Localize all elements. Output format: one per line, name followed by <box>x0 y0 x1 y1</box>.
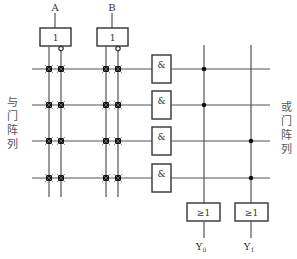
fuse-x-marks <box>45 65 122 182</box>
and-array-fuses <box>47 67 121 181</box>
input-b-buffer-label: 1 <box>110 33 116 43</box>
input-b-label: B <box>108 2 115 13</box>
input-a-inverter-bubble <box>59 46 63 50</box>
connection-dot <box>249 176 254 181</box>
or-array-label: 或 门 阵 列 <box>280 101 292 157</box>
output-y0-label: Y0 <box>195 241 207 253</box>
input-a-label: A <box>50 2 59 13</box>
input-a-buffer-label: 1 <box>53 33 59 43</box>
or-gate-y0-label: ≥1 <box>197 208 210 218</box>
or-array-connections <box>202 67 254 181</box>
output-y1-label: Y1 <box>243 241 254 253</box>
connection-dot <box>202 67 207 72</box>
and-gate-1-label: & <box>157 60 165 70</box>
or-gate-y1-label: ≥1 <box>245 208 258 218</box>
and-gate-3-label: & <box>157 132 165 142</box>
and-gate-2-label: & <box>157 96 165 106</box>
connection-dot <box>202 103 207 108</box>
and-gate-4-label: & <box>157 169 165 179</box>
connection-dot <box>249 139 254 144</box>
input-b-inverter-bubble <box>116 46 120 50</box>
pla-diagram: A B 1 1 & & & & ≥1 ≥1 Y0 Y1 <box>0 0 297 259</box>
and-array-label: 与 门 阵 列 <box>6 96 18 152</box>
